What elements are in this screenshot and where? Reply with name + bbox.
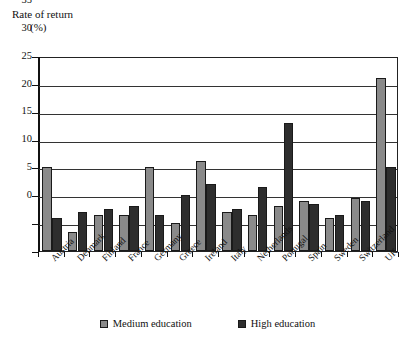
legend-swatch-medium-education [100, 320, 108, 328]
bar-group [39, 58, 65, 251]
y-axis-tick [32, 57, 38, 58]
y-axis-tick-label: 25 [8, 51, 32, 61]
bar-ireland-high[interactable] [206, 184, 216, 251]
legend-item-medium-education[interactable]: Medium education [100, 318, 192, 329]
bar-group [322, 58, 348, 251]
y-axis-tick-label: 5 [8, 162, 32, 172]
bar-ireland-medium[interactable] [196, 161, 206, 251]
legend-label-medium-education: Medium education [113, 318, 192, 329]
y-axis-tick [32, 224, 38, 225]
bar-uk-medium[interactable] [376, 78, 386, 251]
chart-legend: Medium education High education [0, 318, 415, 329]
bars-layer [39, 58, 397, 251]
bar-group [245, 58, 271, 251]
bar-group [296, 58, 322, 251]
y-axis-tick-label: 35 [8, 0, 32, 5]
plot-area [38, 57, 398, 252]
y-axis-tick-label: 20 [8, 79, 32, 89]
bar-netherlands-high[interactable] [258, 187, 268, 251]
y-axis-labels: 05101520253035 [4, 0, 32, 355]
y-axis-tick [32, 168, 38, 169]
y-axis-tick [32, 196, 38, 197]
y-axis-tick-label: 15 [8, 106, 32, 116]
bar-netherlands-medium[interactable] [248, 215, 258, 251]
bar-group [168, 58, 194, 251]
y-axis-tick [32, 113, 38, 114]
y-axis-tick [32, 141, 38, 142]
y-axis-tick [32, 252, 38, 253]
bar-group [90, 58, 116, 251]
x-axis-labels: AustriaDenmarkFinlandFranceGermanyGreece… [38, 256, 398, 312]
rate-of-return-bar-chart: Rate of return (%) 05101520253035 Austri… [0, 0, 415, 355]
bar-group [348, 58, 374, 251]
bar-group [65, 58, 91, 251]
bar-group [193, 58, 219, 251]
bar-group [373, 58, 399, 251]
y-axis-tick-label: 0 [8, 190, 32, 200]
legend-item-high-education[interactable]: High education [238, 318, 315, 329]
y-axis-tick [32, 85, 38, 86]
y-axis-tick-label: 10 [8, 134, 32, 144]
bar-group [219, 58, 245, 251]
legend-swatch-high-education [238, 320, 246, 328]
bar-germany-medium[interactable] [145, 167, 155, 251]
y-axis-tick-label: 30 [8, 23, 32, 33]
legend-label-high-education: High education [251, 318, 315, 329]
bar-austria-medium[interactable] [42, 167, 52, 251]
bar-group [116, 58, 142, 251]
bar-group [270, 58, 296, 251]
bar-group [142, 58, 168, 251]
